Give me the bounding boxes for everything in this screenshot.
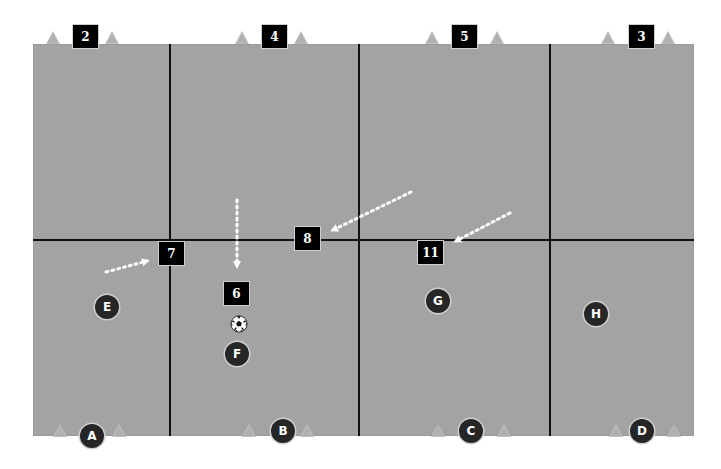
cone-icon: [425, 31, 439, 44]
player-d: D: [630, 419, 654, 443]
player-g: G: [426, 289, 450, 313]
cone-icon: [667, 424, 681, 437]
cone-icon: [53, 424, 67, 437]
player-e: E: [95, 295, 119, 319]
player-h: H: [584, 302, 608, 326]
cone-icon: [294, 31, 308, 44]
cone-icon: [601, 31, 615, 44]
cone-icon: [242, 424, 256, 437]
marker-3: 3: [629, 25, 654, 48]
cone-icon: [609, 424, 623, 437]
marker-7: 7: [159, 242, 184, 265]
grid-line-horizontal: [33, 239, 694, 241]
player-c: C: [459, 419, 483, 443]
marker-11: 11: [418, 241, 443, 264]
marker-4: 4: [262, 25, 287, 48]
cone-icon: [105, 31, 119, 44]
marker-8: 8: [295, 227, 320, 250]
marker-5: 5: [452, 25, 477, 48]
marker-6: 6: [224, 282, 249, 305]
cone-icon: [661, 31, 675, 44]
soccer-ball-icon: [230, 315, 248, 333]
player-a: A: [80, 424, 104, 448]
cone-icon: [431, 424, 445, 437]
cone-icon: [46, 31, 60, 44]
cone-icon: [497, 424, 511, 437]
cone-icon: [235, 31, 249, 44]
cone-icon: [112, 424, 126, 437]
cone-icon: [300, 424, 314, 437]
cone-icon: [490, 31, 504, 44]
marker-2: 2: [73, 25, 98, 48]
player-b: B: [271, 419, 295, 443]
player-f: F: [225, 342, 249, 366]
